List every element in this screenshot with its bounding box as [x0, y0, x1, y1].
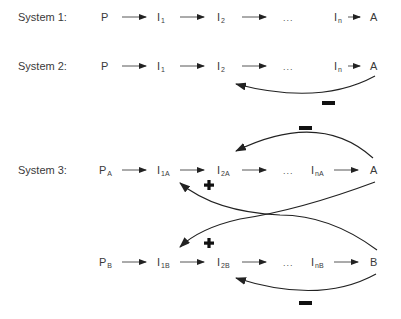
signs	[204, 101, 335, 305]
feedback-arrow-system3-b	[236, 274, 376, 291]
feedback-arrow-system3-a	[236, 132, 373, 158]
arrows-layer	[0, 0, 401, 319]
forward-arrows	[122, 17, 360, 262]
feedback-arrow-system2	[236, 76, 375, 93]
minus-sign-system3-a	[299, 126, 312, 130]
diagram-canvas: System 1: System 2: System 3: P I1 I2 ..…	[0, 0, 401, 319]
minus-sign-system2	[322, 101, 335, 105]
minus-sign-system3-b	[299, 301, 312, 305]
